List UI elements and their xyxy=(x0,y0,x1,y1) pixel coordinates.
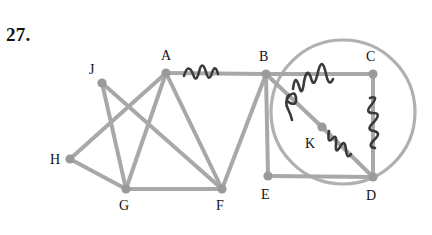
vertex-d xyxy=(368,172,377,181)
edge-a-b xyxy=(166,73,266,74)
vertex-label-j: J xyxy=(89,62,95,77)
edge-h-g xyxy=(70,159,126,189)
circle-layer xyxy=(271,40,415,184)
edge-b-e xyxy=(266,74,268,176)
vertex-a xyxy=(161,68,170,77)
scribble-on-edge-bc xyxy=(293,64,333,91)
vertex-h xyxy=(65,154,74,163)
edge-e-d xyxy=(268,176,373,177)
graph-diagram: JABCHKGFED xyxy=(0,0,432,235)
vertex-e xyxy=(263,171,272,180)
vertex-label-c: C xyxy=(366,49,375,64)
edge-a-f xyxy=(166,73,222,189)
figure-container: 27. JABCHKGFED xyxy=(0,0,432,235)
vertex-label-e: E xyxy=(261,187,270,202)
vertex-label-k: K xyxy=(305,136,315,151)
circle-through-b-c-d xyxy=(271,40,415,184)
vertex-label-d: D xyxy=(366,188,376,203)
vertex-label-a: A xyxy=(161,48,172,63)
vertex-label-f: F xyxy=(216,198,224,213)
vertex-label-h: H xyxy=(50,152,60,167)
vertex-g xyxy=(121,184,130,193)
edge-layer xyxy=(70,73,373,189)
vertex-f xyxy=(217,184,226,193)
vertex-label-g: G xyxy=(119,198,129,213)
vertex-j xyxy=(97,78,106,87)
edge-b-f xyxy=(222,74,266,189)
vertex-b xyxy=(261,69,270,78)
vertex-label-b: B xyxy=(259,49,268,64)
vertex-c xyxy=(368,69,377,78)
edge-j-f xyxy=(102,83,222,189)
vertex-k xyxy=(317,122,326,131)
